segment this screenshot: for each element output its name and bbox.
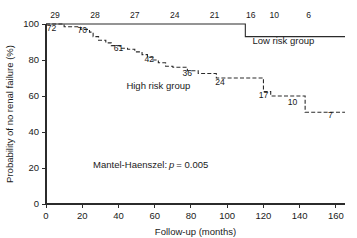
annotation-part: Mantel-Haenszel:	[93, 159, 167, 170]
at-risk-count: 72	[47, 23, 57, 33]
at-risk-count: 6	[306, 10, 311, 20]
x-axis-tick-label: 0	[43, 210, 48, 221]
at-risk-count: 24	[170, 10, 180, 20]
chart-canvas: 020406080100020406080100120140160Follow-…	[0, 0, 357, 238]
at-risk-count: 42	[145, 54, 155, 64]
x-axis-tick-label: 60	[149, 210, 160, 221]
at-risk-count: 21	[210, 10, 220, 20]
y-axis-tick-label: 60	[28, 90, 39, 101]
at-risk-count: 16	[246, 10, 256, 20]
annotation-part: = 0.005	[176, 159, 208, 170]
at-risk-count: 29	[50, 10, 60, 20]
at-risk-count: 7	[328, 110, 333, 120]
x-axis-tick-label: 20	[77, 210, 88, 221]
at-risk-count: 36	[183, 68, 193, 78]
at-risk-count: 10	[270, 10, 280, 20]
y-axis-title: Probability of no renal failure (%)	[4, 45, 15, 183]
x-axis-tick-label: 120	[256, 210, 272, 221]
x-axis-tick-label: 100	[219, 210, 235, 221]
at-risk-count: 27	[130, 10, 140, 20]
kaplan-meier-figure: 020406080100020406080100120140160Follow-…	[0, 0, 357, 238]
x-axis-tick-label: 160	[328, 210, 344, 221]
annotation-part: p	[168, 159, 174, 170]
at-risk-count: 61	[114, 43, 124, 53]
y-axis-tick-label: 40	[28, 126, 39, 137]
x-axis-tick-label: 80	[186, 210, 197, 221]
group-label-low-risk-group: Low risk group	[252, 35, 314, 46]
group-label-high-risk-group: High risk group	[126, 80, 190, 91]
x-axis-tick-label: 140	[292, 210, 308, 221]
at-risk-count: 28	[90, 10, 100, 20]
y-axis-tick-label: 100	[23, 18, 39, 29]
at-risk-count: 70	[77, 25, 87, 35]
y-axis-tick-label: 80	[28, 54, 39, 65]
at-risk-count: 24	[215, 77, 225, 87]
x-axis-tick-label: 40	[113, 210, 124, 221]
at-risk-count: 10	[288, 97, 298, 107]
y-axis-tick-label: 0	[34, 198, 39, 209]
statistical-test-annotation: Mantel-Haenszel:p= 0.005	[93, 159, 208, 170]
x-axis-title: Follow-up (months)	[155, 226, 236, 237]
at-risk-count: 17	[259, 90, 269, 100]
y-axis-tick-label: 20	[28, 162, 39, 173]
